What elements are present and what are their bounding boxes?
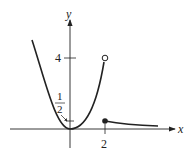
y-axis-label: y [65,7,72,21]
y-tick-label-4: 4 [55,51,61,65]
fraction-denominator: 2 [57,103,63,115]
closed-dot-endpoint [102,118,108,124]
open-circle-endpoint [102,55,108,61]
annotation-arrow [61,115,67,121]
x-tick-label-2: 2 [101,137,107,151]
decay-curve [105,121,158,126]
parabola-curve [32,40,104,129]
x-axis-label: x [177,122,184,136]
fraction-numerator: 1 [57,90,63,102]
function-graph: x y 4 2 1 2 [0,0,192,161]
